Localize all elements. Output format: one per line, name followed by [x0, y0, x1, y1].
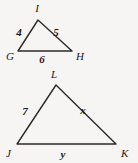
figure-canvas: I G H 4 5 6 L J K 7 x y — [0, 0, 138, 163]
side-label-gh: 6 — [39, 53, 45, 65]
vertex-label-h: H — [75, 50, 85, 62]
vertex-label-l: L — [50, 68, 57, 80]
side-label-lk: x — [79, 104, 86, 116]
vertex-label-k: K — [120, 147, 129, 159]
similar-triangles-figure: I G H 4 5 6 L J K 7 x y — [0, 0, 138, 163]
side-label-jl: 7 — [22, 105, 28, 117]
side-label-gi: 4 — [15, 26, 22, 38]
side-label-jk: y — [59, 148, 66, 160]
side-label-ih: 5 — [53, 26, 59, 38]
vertex-label-g: G — [6, 50, 14, 62]
